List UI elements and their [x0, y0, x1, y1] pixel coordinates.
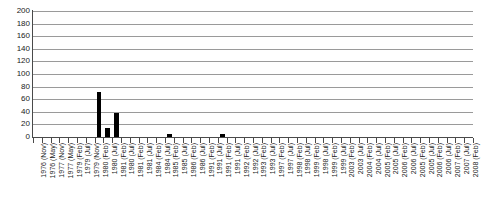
x-axis-tick-label: 1999 (Feb) — [331, 143, 338, 177]
y-axis-tick-label: 0 — [2, 133, 30, 141]
gridline — [33, 74, 473, 75]
y-axis-tick-label: 100 — [2, 70, 30, 78]
x-axis-tick-label: 2007 (Jul) — [463, 143, 470, 174]
x-axis-tick-label: 2005 (Feb) — [384, 143, 391, 177]
y-axis-tick-label: 40 — [2, 108, 30, 116]
x-axis-tick-label: 1999 (Feb) — [313, 143, 320, 177]
x-axis-tick-label: 1981 (Feb) — [137, 143, 144, 177]
x-axis-tick-label: 1991 (Feb) — [225, 143, 232, 177]
x-axis-tick-label: 2005 (Jul) — [392, 143, 399, 174]
gridline — [33, 11, 473, 12]
x-axis-tick-label: 1997 (Jul) — [287, 143, 294, 174]
x-axis-tick-label: 1976 (Nov) — [40, 143, 47, 178]
x-axis-tick-label: 2003 (Feb) — [348, 143, 355, 177]
x-axis-tick-label: 2005 (Jul) — [428, 143, 435, 174]
x-axis-tick-label: 1981 (Jul) — [146, 143, 153, 174]
x-axis-tick-label: 2006 (Feb) — [401, 143, 408, 177]
gridline — [33, 49, 473, 50]
bar — [167, 134, 172, 137]
x-axis-tick-label: 2008 (Feb) — [472, 143, 479, 177]
y-axis-tick-label: 80 — [2, 83, 30, 91]
x-axis-tick-label: 1986 (Feb) — [190, 143, 197, 177]
gridline — [33, 61, 473, 62]
x-axis-tick-label: 1979 (Feb) — [76, 143, 83, 177]
y-axis-tick-label: 20 — [2, 120, 30, 128]
x-axis-tick-label: 1991 (Jul) — [216, 143, 223, 174]
y-axis-tick-label: 200 — [2, 7, 30, 15]
y-axis-tick-labels: 020406080100120140160180200 — [0, 0, 30, 211]
x-axis-tick-label: 2003 (Jul) — [357, 143, 364, 174]
gridline — [33, 36, 473, 37]
x-axis-tick-label: 2004 (Jul) — [375, 143, 382, 174]
x-axis-tick-label: 1984 (Feb) — [155, 143, 162, 177]
x-axis-tick-label: 2007 (Feb) — [454, 143, 461, 177]
plot-area — [33, 11, 473, 137]
bar-chart: 020406080100120140160180200 1976 (Nov)19… — [0, 0, 486, 211]
x-axis-tick-label: 1986 (Jul) — [199, 143, 206, 174]
y-axis-tick-label: 180 — [2, 20, 30, 28]
gridline — [33, 24, 473, 25]
x-axis-tick-label: 1979 (Nov) — [93, 143, 100, 178]
x-axis-tick-label: 2006 (Feb) — [436, 143, 443, 177]
x-axis-tick-label: 1993 (Jul) — [269, 143, 276, 174]
x-axis-tick-label: 1998 (Jul) — [322, 143, 329, 174]
x-axis-tick-label: 1992 (Jul) — [252, 143, 259, 174]
x-axis-tick-labels: 1976 (Nov)1976 (May)1977 (Nov)1977 (May)… — [33, 143, 473, 211]
x-axis-tick-label: 1984 (Jul) — [164, 143, 171, 174]
x-axis-tick-label: 1979 (Jul) — [84, 143, 91, 174]
x-axis-tick-label: 2004 (Feb) — [366, 143, 373, 177]
x-axis-tick-label: 1998 (Feb) — [296, 143, 303, 177]
x-axis-tick-label: 1985 (Feb) — [172, 143, 179, 177]
y-axis-tick-label: 140 — [2, 45, 30, 53]
bar — [97, 92, 102, 137]
x-axis-tick-label: 2006 (Jul) — [410, 143, 417, 174]
y-axis-tick-label: 160 — [2, 32, 30, 40]
x-axis-tick-label: 1976 (May) — [49, 143, 56, 178]
x-axis-tick-label: 1997 (Feb) — [278, 143, 285, 177]
x-axis-tick-label: 1981 (Feb) — [120, 143, 127, 177]
x-axis-tick-label: 1993 (Feb) — [260, 143, 267, 177]
bar — [220, 134, 225, 137]
x-axis-tick-label: 1977 (May) — [67, 143, 74, 178]
x-axis-tick-label: 1999 (Jul) — [340, 143, 347, 174]
x-axis-tick-label: 2005 (Feb) — [419, 143, 426, 177]
bar — [114, 113, 119, 137]
y-axis-tick-label: 120 — [2, 57, 30, 65]
x-axis-tick-label: 1991 (Jul) — [234, 143, 241, 174]
y-axis-tick-label: 60 — [2, 95, 30, 103]
x-axis-tick-label: 1980 (Jul) — [128, 143, 135, 174]
x-axis-tick-label: 1998 (Jul) — [304, 143, 311, 174]
x-axis-tick-label: 1985 (Jul) — [181, 143, 188, 174]
x-axis-tick-label: 1977 (Nov) — [58, 143, 65, 178]
x-axis-tick-label: 2006 (Jul) — [445, 143, 452, 174]
x-axis-tick-label: 1980 (Feb) — [102, 143, 109, 177]
x-axis-tick-label: 1980 (Jul) — [111, 143, 118, 174]
x-axis-tick-label: 1991 (Feb) — [208, 143, 215, 177]
x-axis-tick-label: 1992 (Feb) — [243, 143, 250, 177]
gridline — [33, 87, 473, 88]
bar — [105, 128, 110, 137]
